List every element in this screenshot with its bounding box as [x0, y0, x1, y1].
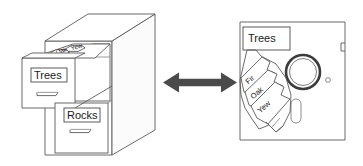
filing-cabinet: Fir Oak Yew [22, 14, 155, 155]
floppy-head-slot [291, 99, 301, 123]
floppy-hub-inner-ring [290, 59, 317, 86]
floppy-disk: Trees Fir Oak [240, 22, 345, 140]
floppy-label: Trees [248, 32, 276, 44]
drawer-closed-label: Rocks [67, 109, 98, 121]
drawer-open-front-panel [22, 58, 75, 108]
analogy-diagram: Filing cabinet and floppy disk analogy [0, 0, 363, 166]
cabinet-drawer-closed[interactable]: Rocks [55, 103, 108, 153]
drawer-open-front-lip [22, 53, 85, 58]
double-headed-arrow [163, 73, 237, 93]
diagram-root: Filing cabinet and floppy disk analogy [0, 0, 363, 166]
arrow-shape [163, 73, 237, 93]
floppy-index-hole [326, 78, 331, 83]
cabinet-drawer-open[interactable]: Fir Oak Yew [22, 41, 110, 108]
drawer-open-label: Trees [34, 69, 62, 81]
